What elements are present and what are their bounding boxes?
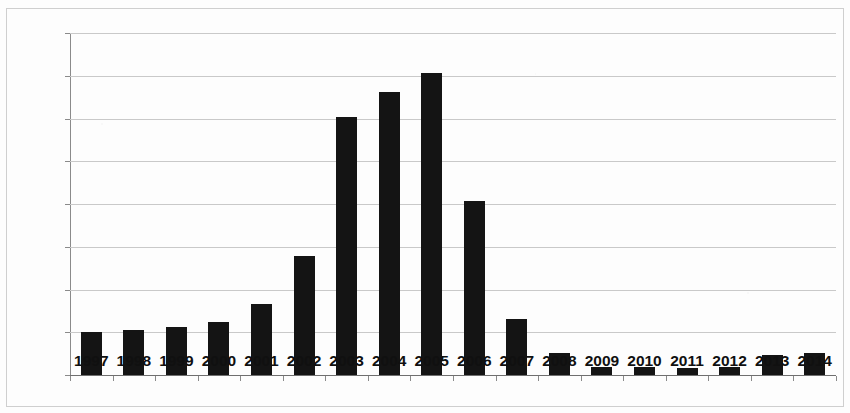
x-tick-mark-1997 bbox=[70, 376, 71, 381]
x-tick-mark-2007 bbox=[496, 376, 497, 381]
x-tick-label-2012: 2012 bbox=[712, 352, 746, 370]
x-tick-label-2005: 2005 bbox=[414, 352, 448, 370]
gridline-6000 bbox=[70, 119, 836, 120]
x-tick-label-2008: 2008 bbox=[542, 352, 576, 370]
x-tick-mark-end bbox=[836, 376, 837, 381]
x-tick-label-2009: 2009 bbox=[585, 352, 619, 370]
x-tick-label-1997: 1997 bbox=[74, 352, 108, 370]
bar-2004 bbox=[379, 92, 400, 375]
x-tick-label-2006: 2006 bbox=[457, 352, 491, 370]
x-tick-mark-2005 bbox=[410, 376, 411, 381]
x-tick-label-2010: 2010 bbox=[627, 352, 661, 370]
y-tick-mark-4000 bbox=[65, 204, 70, 205]
x-tick-label-1999: 1999 bbox=[159, 352, 193, 370]
bar-2005 bbox=[421, 73, 442, 375]
y-tick-mark-8000 bbox=[65, 33, 70, 34]
x-tick-mark-2004 bbox=[368, 376, 369, 381]
x-tick-label-2003: 2003 bbox=[329, 352, 363, 370]
gridline-2000 bbox=[70, 290, 836, 291]
plot-area bbox=[70, 33, 836, 375]
x-tick-label-2011: 2011 bbox=[670, 352, 704, 370]
x-tick-label-2000: 2000 bbox=[202, 352, 236, 370]
x-tick-label-2004: 2004 bbox=[372, 352, 406, 370]
x-tick-label-2002: 2002 bbox=[287, 352, 321, 370]
y-tick-mark-7000 bbox=[65, 76, 70, 77]
y-tick-mark-6000 bbox=[65, 119, 70, 120]
x-tick-mark-2001 bbox=[240, 376, 241, 381]
y-tick-mark-2000 bbox=[65, 290, 70, 291]
x-tick-mark-2006 bbox=[453, 376, 454, 381]
x-tick-mark-2012 bbox=[708, 376, 709, 381]
bar-2003 bbox=[336, 117, 357, 375]
x-tick-mark-2002 bbox=[283, 376, 284, 381]
x-tick-mark-2013 bbox=[751, 376, 752, 381]
x-tick-mark-1998 bbox=[113, 376, 114, 381]
bar-chart-figure: 01,0002,0003,0004,0005,0006,0007,0008,00… bbox=[0, 0, 850, 413]
x-tick-mark-2014 bbox=[793, 376, 794, 381]
gridline-8000 bbox=[70, 33, 836, 34]
gridline-5000 bbox=[70, 161, 836, 162]
x-tick-label-2007: 2007 bbox=[500, 352, 534, 370]
x-tick-mark-2000 bbox=[198, 376, 199, 381]
x-tick-label-2001: 2001 bbox=[244, 352, 278, 370]
x-tick-mark-2003 bbox=[325, 376, 326, 381]
y-tick-mark-5000 bbox=[65, 161, 70, 162]
gridline-4000 bbox=[70, 204, 836, 205]
y-tick-mark-1000 bbox=[65, 332, 70, 333]
x-tick-mark-2011 bbox=[666, 376, 667, 381]
x-tick-mark-2010 bbox=[623, 376, 624, 381]
y-tick-mark-3000 bbox=[65, 247, 70, 248]
bar-2006 bbox=[464, 201, 485, 375]
gridline-7000 bbox=[70, 76, 836, 77]
x-tick-label-2013: 2013 bbox=[755, 352, 789, 370]
x-tick-mark-1999 bbox=[155, 376, 156, 381]
gridline-3000 bbox=[70, 247, 836, 248]
x-tick-mark-2008 bbox=[538, 376, 539, 381]
x-tick-mark-2009 bbox=[581, 376, 582, 381]
x-tick-label-1998: 1998 bbox=[117, 352, 151, 370]
x-tick-label-2014: 2014 bbox=[797, 352, 831, 370]
